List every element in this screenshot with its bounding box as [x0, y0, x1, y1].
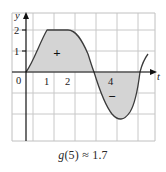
y-tick-label-1: 1 — [14, 46, 19, 57]
x-tick-label-4: 4 — [108, 76, 114, 87]
origin-tick-label: 0 — [16, 75, 21, 86]
y-axis — [23, 12, 29, 141]
shaded-area-negative — [94, 72, 140, 119]
x-axis-label: t — [157, 71, 161, 82]
negative-region-sign: − — [108, 89, 115, 104]
figure-caption: g(5) ≈ 1.7 — [0, 148, 166, 162]
y-axis-label: y — [14, 10, 20, 21]
x-tick-label-2: 2 — [65, 76, 70, 87]
x-tick-label-1: 1 — [44, 76, 49, 87]
caption-value: (5) ≈ 1.7 — [64, 148, 107, 162]
y-tick-label-2: 2 — [14, 25, 19, 36]
figure-container: y t 0 1 2 4 1 2 + − g(5) ≈ 1.7 — [0, 0, 166, 172]
positive-region-sign: + — [53, 45, 60, 60]
graph-plot: y t 0 1 2 4 1 2 + − — [0, 0, 166, 146]
